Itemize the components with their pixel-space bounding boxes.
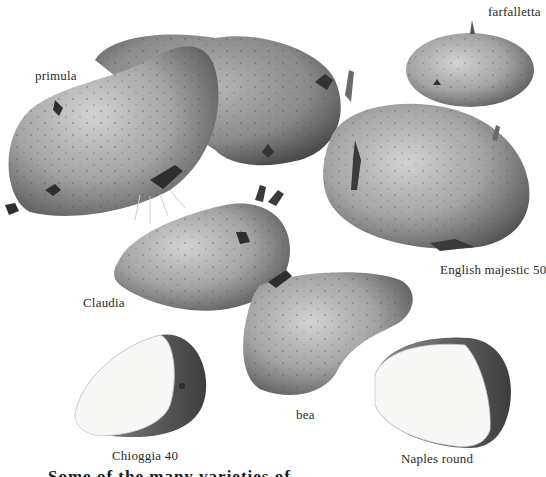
cropped-caption-text: Some of the many varieties of...	[48, 466, 307, 477]
label-farfalletta: farfalletta	[488, 4, 541, 20]
label-english-majestic-50: English majestic 50	[440, 262, 546, 278]
label-chioggia-40: Chioggia 40	[112, 448, 178, 464]
potato-chioggia-40-cut	[75, 334, 206, 437]
label-claudia: Claudia	[83, 295, 125, 311]
label-primula: primula	[35, 68, 77, 84]
label-bea: bea	[296, 407, 315, 423]
potato-farfalletta	[406, 20, 534, 107]
potato-naples-round-cut	[375, 337, 511, 448]
label-naples-round: Naples round	[401, 451, 473, 467]
